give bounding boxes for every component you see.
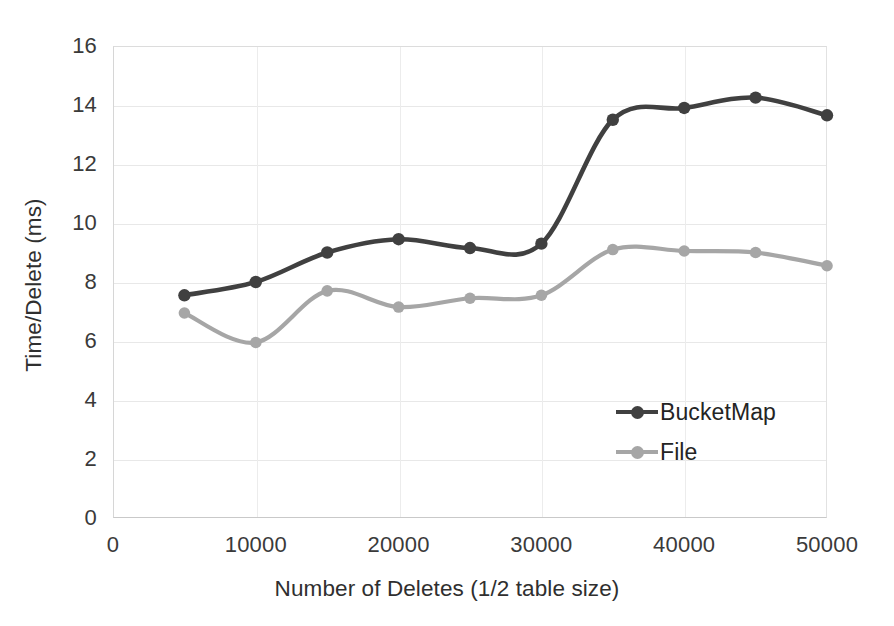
legend-item-bucketmap[interactable]: BucketMap — [616, 392, 776, 432]
data-point[interactable] — [250, 276, 262, 288]
x-axis-tick-label: 20000 — [329, 534, 469, 556]
legend-item-file[interactable]: File — [616, 432, 776, 472]
x-axis-tick-label: 10000 — [186, 534, 326, 556]
data-point[interactable] — [678, 245, 690, 257]
series-layer — [0, 0, 894, 626]
data-point[interactable] — [178, 289, 190, 301]
chart-legend: BucketMap File — [616, 392, 776, 472]
data-point[interactable] — [464, 242, 476, 254]
data-point[interactable] — [749, 91, 761, 103]
data-point[interactable] — [536, 289, 548, 301]
y-axis-tick-label: 14 — [37, 94, 97, 116]
legend-label-file: File — [658, 439, 697, 466]
series-bucketmap — [178, 91, 833, 301]
chart-container: 0246810121416 01000020000300004000050000… — [0, 0, 894, 626]
data-point[interactable] — [464, 292, 476, 304]
data-point[interactable] — [821, 109, 833, 121]
data-point[interactable] — [321, 246, 333, 258]
x-axis-tick-label: 0 — [43, 534, 183, 556]
data-point[interactable] — [535, 237, 547, 249]
legend-marker-bucketmap-icon — [616, 402, 658, 422]
data-point[interactable] — [678, 102, 690, 114]
data-point[interactable] — [321, 285, 333, 297]
y-axis-title: Time/Delete (ms) — [21, 115, 47, 455]
data-point[interactable] — [393, 301, 405, 313]
x-axis-ticks: 01000020000300004000050000 — [0, 534, 894, 564]
data-point[interactable] — [821, 260, 833, 272]
series-line — [184, 247, 827, 343]
data-point[interactable] — [607, 114, 619, 126]
data-point[interactable] — [392, 233, 404, 245]
series-line — [184, 98, 827, 296]
y-axis-tick-label: 16 — [37, 35, 97, 57]
x-axis-title: Number of Deletes (1/2 table size) — [0, 576, 894, 602]
y-axis-tick-label: 0 — [37, 507, 97, 529]
x-axis-tick-label: 40000 — [614, 534, 754, 556]
legend-label-bucketmap: BucketMap — [658, 399, 776, 426]
data-point[interactable] — [750, 247, 762, 259]
data-point[interactable] — [179, 307, 191, 319]
data-point[interactable] — [607, 244, 619, 256]
data-point[interactable] — [250, 337, 262, 349]
x-axis-tick-label: 30000 — [471, 534, 611, 556]
x-axis-tick-label: 50000 — [757, 534, 894, 556]
series-file — [179, 244, 833, 349]
legend-marker-file-icon — [616, 442, 658, 462]
